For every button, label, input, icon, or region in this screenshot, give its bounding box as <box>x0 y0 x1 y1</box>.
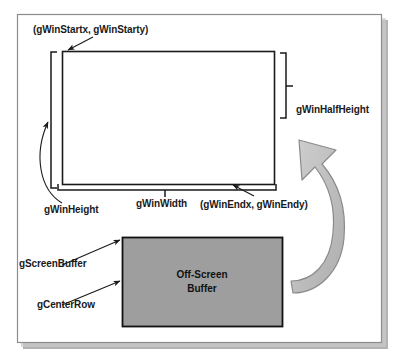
window-rect <box>63 52 275 185</box>
offscreen-buffer-label-line2: Buffer <box>122 282 282 296</box>
offscreen-buffer-label: Off-Screen Buffer <box>122 268 282 296</box>
label-start-coords: (gWinStartx, gWinStarty) <box>33 24 148 36</box>
label-screen-buffer: gScreenBuffer <box>19 258 87 270</box>
label-height: gWinHeight <box>44 204 98 216</box>
label-half-height: gWinHalfHeight <box>296 104 369 116</box>
label-width: gWinWidth <box>136 198 187 210</box>
diagram-canvas: (gWinStartx, gWinStarty) gWinHalfHeight … <box>0 0 406 360</box>
offscreen-buffer-label-line1: Off-Screen <box>122 268 282 282</box>
label-end-coords: (gWinEndx, gWinEndy) <box>200 199 308 211</box>
label-center-row: gCenterRow <box>37 299 95 311</box>
